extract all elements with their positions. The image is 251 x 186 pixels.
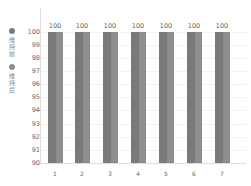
bar-segment — [139, 32, 146, 163]
x-axis-line — [41, 163, 246, 164]
bar[interactable] — [159, 32, 174, 163]
y-tick: 94 — [32, 106, 40, 114]
bar-segment — [215, 32, 223, 163]
bar[interactable] — [215, 32, 230, 163]
y-tick: 90 — [32, 159, 40, 167]
y-tick: 92 — [32, 133, 40, 141]
x-tick: 3 — [108, 170, 112, 177]
y-axis: 100 99 98 97 96 95 94 93 92 91 90 — [24, 0, 40, 186]
x-tick: 4 — [136, 170, 140, 177]
y-tick: 93 — [32, 120, 40, 128]
y-tick: 98 — [32, 54, 40, 62]
bar[interactable] — [187, 32, 202, 163]
bar-segment — [187, 32, 195, 163]
legend-label: 维持后 — [9, 73, 16, 94]
bar-segment — [223, 32, 230, 163]
bar-segment — [48, 32, 56, 163]
y-tick: 91 — [32, 146, 40, 154]
bar[interactable] — [75, 32, 90, 163]
bar-segment — [159, 32, 167, 163]
bar-segment — [103, 32, 111, 163]
data-label: 100 — [49, 22, 61, 30]
data-label: 100 — [76, 22, 88, 30]
y-tick: 99 — [32, 41, 40, 49]
legend-label: 维持前 — [9, 37, 16, 58]
y-tick: 95 — [32, 93, 40, 101]
data-label: 100 — [160, 22, 172, 30]
x-tick: 7 — [220, 170, 224, 177]
bar-segment — [83, 32, 90, 163]
legend-dot-icon — [9, 64, 15, 70]
data-label: 100 — [132, 22, 144, 30]
x-tick: 2 — [80, 170, 84, 177]
data-label: 100 — [104, 22, 116, 30]
bar-segment — [131, 32, 139, 163]
data-label: 100 — [188, 22, 200, 30]
bar[interactable] — [131, 32, 146, 163]
y-tick: 100 — [28, 28, 40, 36]
bar-segment — [75, 32, 83, 163]
legend-item-series-1[interactable]: 维持前 — [5, 28, 19, 58]
legend: 维持前 维持后 — [5, 28, 19, 100]
bar-segment — [56, 32, 63, 163]
x-tick: 5 — [164, 170, 168, 177]
data-label: 100 — [216, 22, 228, 30]
bar-segment — [167, 32, 174, 163]
legend-item-series-2[interactable]: 维持后 — [5, 64, 19, 94]
legend-dot-icon — [9, 28, 15, 34]
x-tick: 1 — [53, 170, 57, 177]
bar-segment — [111, 32, 118, 163]
bar[interactable] — [48, 32, 63, 163]
bar[interactable] — [103, 32, 118, 163]
x-tick: 6 — [192, 170, 196, 177]
bar-segment — [195, 32, 202, 163]
y-tick: 96 — [32, 80, 40, 88]
y-tick: 97 — [32, 67, 40, 75]
